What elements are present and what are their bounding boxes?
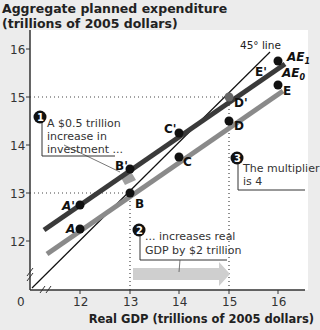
point-e-label: E <box>283 84 291 98</box>
point-c-prime-label: C' <box>164 122 176 136</box>
svg-text:increase in: increase in <box>47 130 107 143</box>
y-tick-12: 12 <box>10 235 25 249</box>
svg-text:GDP by $2 trillion: GDP by $2 trillion <box>145 244 241 257</box>
point-b-label: B <box>135 197 144 211</box>
x-tick-0: 0 <box>17 295 25 309</box>
point-b-prime-label: B' <box>115 159 128 173</box>
x-tick-16: 16 <box>271 295 286 309</box>
y-tick-15: 15 <box>10 91 25 105</box>
y-tick-13: 13 <box>10 187 25 201</box>
point-a-label: A <box>65 222 75 236</box>
x-tick-15: 15 <box>222 295 237 309</box>
svg-text:A $0.5 trillion: A $0.5 trillion <box>47 117 121 130</box>
svg-text:is 4: is 4 <box>243 175 262 188</box>
svg-text:2: 2 <box>136 225 143 236</box>
x-tick-14: 14 <box>172 295 187 309</box>
point-e-prime-label: E' <box>255 65 267 79</box>
point-d-prime-label: D' <box>234 96 248 110</box>
svg-text:The multiplier: The multiplier <box>242 162 320 175</box>
svg-text:investment ...: investment ... <box>47 143 123 156</box>
point-c-label: C <box>183 155 192 169</box>
svg-text:3: 3 <box>234 153 241 164</box>
point-a-prime-label: A' <box>61 199 75 213</box>
x-axis-title: Real GDP (trillions of 2005 dollars) <box>89 312 314 326</box>
svg-text:1: 1 <box>37 112 44 123</box>
svg-text:... increases real: ... increases real <box>145 230 235 243</box>
x-tick-12: 12 <box>73 295 88 309</box>
y-tick-16: 16 <box>10 43 25 57</box>
x-tick-13: 13 <box>123 295 138 309</box>
line-45-label: 45° line <box>240 39 281 51</box>
point-d-label: D <box>234 119 244 133</box>
y-tick-14: 14 <box>10 139 25 153</box>
chart: 16 15 14 13 12 0 12 13 14 15 16 45° line… <box>0 0 320 330</box>
